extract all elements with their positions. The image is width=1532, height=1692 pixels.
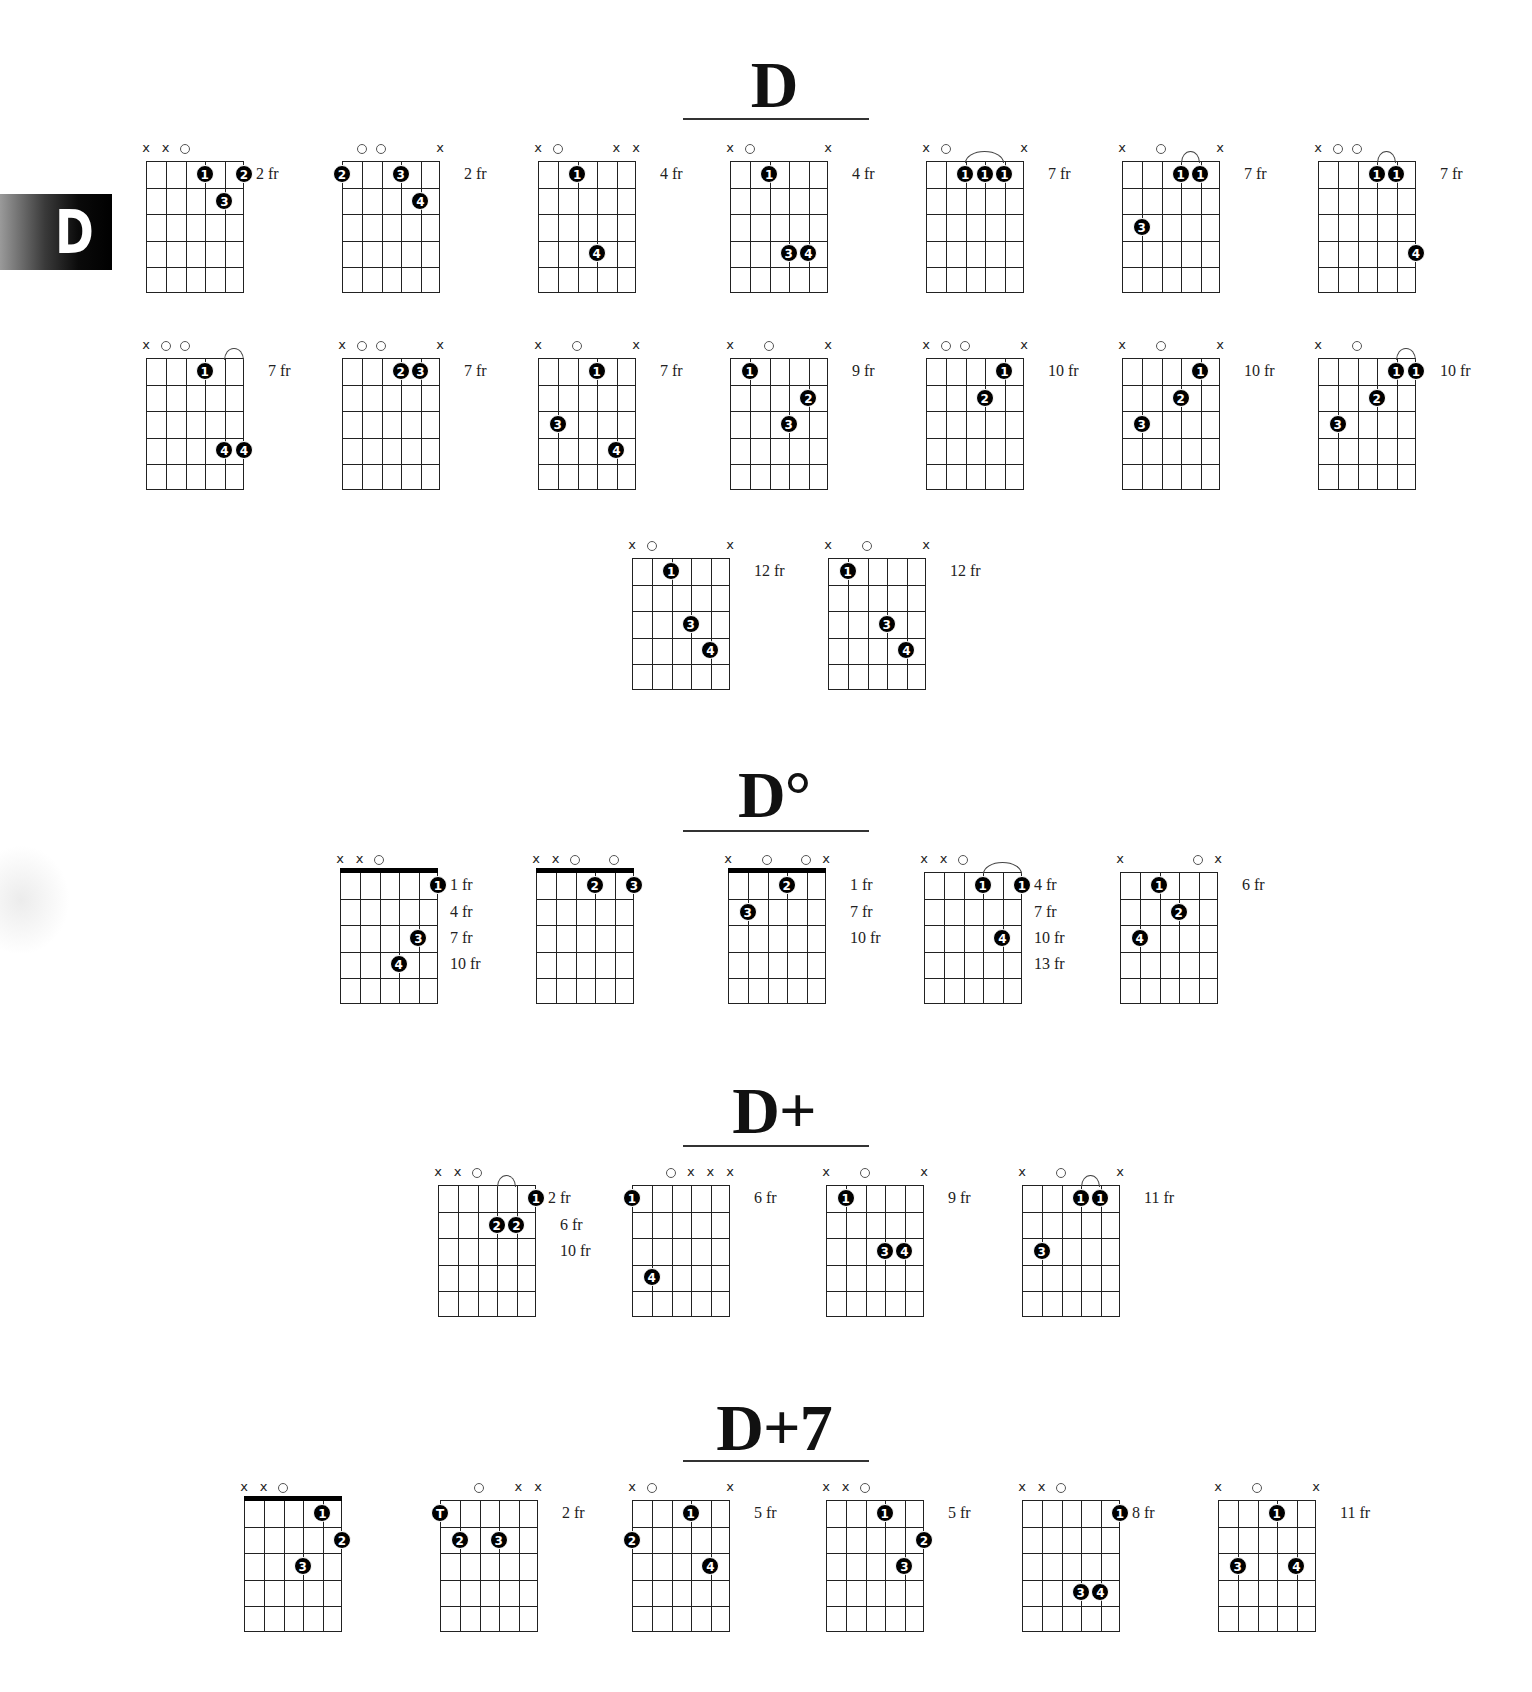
muted-string-icon: x — [159, 141, 173, 155]
tie-arc-icon — [1081, 1175, 1101, 1187]
fret-line — [1123, 385, 1219, 386]
finger-dot: 3 — [1133, 218, 1151, 236]
nut-bar — [728, 868, 826, 873]
fret-line — [147, 411, 243, 412]
open-string-icon — [745, 144, 755, 154]
muted-string-icon: x — [1211, 852, 1225, 866]
open-string-icon — [572, 341, 582, 351]
muted-string-icon: x — [1309, 1480, 1323, 1494]
fret-line — [1319, 464, 1415, 465]
string-line — [499, 1501, 500, 1631]
chord-diagram: xx231 fr7 fr10 fr — [728, 872, 826, 1004]
finger-dot: 1 — [682, 1504, 700, 1522]
section-title-rule — [683, 1460, 869, 1462]
fret-line — [147, 464, 243, 465]
fret-position-label: 2 fr — [256, 165, 279, 183]
tie-arc-icon — [1181, 151, 1201, 163]
finger-dot: 3 — [490, 1531, 508, 1549]
finger-dot: 1 — [976, 165, 994, 183]
fret-line — [1219, 1527, 1315, 1528]
finger-dot: 1 — [839, 562, 857, 580]
muted-string-icon: x — [451, 1165, 465, 1179]
string-line — [576, 873, 577, 1003]
fret-line — [1121, 899, 1217, 900]
muted-string-icon: x — [353, 852, 367, 866]
fret-position-label: 10 fr — [850, 929, 881, 947]
string-line — [617, 162, 618, 292]
string-line — [789, 162, 790, 292]
tie-arc-icon — [1377, 151, 1397, 163]
string-line — [362, 162, 363, 292]
fret-position-label: 10 fr — [1034, 929, 1065, 947]
tie-arc-icon — [224, 348, 244, 360]
finger-dot: 1 — [1268, 1504, 1286, 1522]
section-tab-d: D — [0, 194, 112, 270]
muted-string-icon: x — [431, 1165, 445, 1179]
string-line — [868, 559, 869, 689]
muted-string-icon: x — [531, 338, 545, 352]
fret-line — [927, 267, 1023, 268]
fret-line — [1319, 214, 1415, 215]
muted-string-icon: x — [139, 338, 153, 352]
muted-string-icon: x — [819, 1480, 833, 1494]
muted-string-icon: x — [257, 1480, 271, 1494]
open-string-icon — [553, 144, 563, 154]
fret-line — [729, 952, 825, 953]
finger-dot: 2 — [488, 1216, 506, 1234]
string-line — [421, 162, 422, 292]
string-line — [711, 1186, 712, 1316]
string-line — [597, 162, 598, 292]
finger-dot: 2 — [799, 389, 817, 407]
finger-dot: 3 — [1133, 415, 1151, 433]
string-line — [809, 359, 810, 489]
fret-line — [729, 925, 825, 926]
string-line — [1162, 162, 1163, 292]
finger-dot: 3 — [780, 415, 798, 433]
string-line — [1377, 359, 1378, 489]
nut-bar — [244, 1496, 342, 1501]
finger-dot: 1 — [837, 1189, 855, 1207]
fret-position-label: 6 fr — [1242, 876, 1265, 894]
tie-arc-icon — [965, 151, 1004, 163]
string-line — [617, 359, 618, 489]
string-line — [284, 1501, 285, 1631]
finger-dot: 2 — [778, 876, 796, 894]
fret-position-label: 12 fr — [754, 562, 785, 580]
muted-string-icon: x — [139, 141, 153, 155]
string-line — [460, 1501, 461, 1631]
open-string-icon — [666, 1168, 676, 1178]
fret-position-label: 7 fr — [1034, 903, 1057, 921]
muted-string-icon: x — [237, 1480, 251, 1494]
fret-line — [731, 188, 827, 189]
muted-string-icon: x — [821, 338, 835, 352]
fret-line — [731, 438, 827, 439]
finger-dot: 1 — [1111, 1504, 1129, 1522]
fret-position-label: 7 fr — [464, 362, 487, 380]
muted-string-icon: x — [531, 141, 545, 155]
fret-line — [827, 1238, 923, 1239]
fret-line — [925, 952, 1021, 953]
finger-dot: 2 — [915, 1531, 933, 1549]
string-line — [1338, 162, 1339, 292]
fretboard-grid — [730, 161, 828, 293]
open-string-icon — [1056, 1483, 1066, 1493]
open-string-icon — [1352, 341, 1362, 351]
open-string-icon — [941, 144, 951, 154]
muted-string-icon: x — [531, 1480, 545, 1494]
open-string-icon — [180, 341, 190, 351]
fret-line — [1023, 1212, 1119, 1213]
string-line — [770, 359, 771, 489]
fret-line — [1123, 241, 1219, 242]
muted-string-icon: x — [625, 1480, 639, 1494]
fret-line — [925, 925, 1021, 926]
fretboard-grid — [728, 872, 826, 1004]
fret-line — [729, 978, 825, 979]
string-line — [711, 559, 712, 689]
finger-dot: 3 — [549, 415, 567, 433]
string-line — [558, 162, 559, 292]
fret-line — [539, 241, 635, 242]
open-string-icon — [762, 855, 772, 865]
finger-dot: 4 — [1131, 929, 1149, 947]
muted-string-icon: x — [433, 338, 447, 352]
finger-dot: 2 — [507, 1216, 525, 1234]
